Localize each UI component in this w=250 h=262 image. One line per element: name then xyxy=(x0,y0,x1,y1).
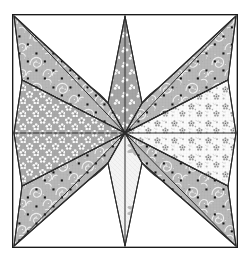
quilt-block-diagram xyxy=(0,0,250,262)
quilt-block-svg xyxy=(0,0,250,262)
